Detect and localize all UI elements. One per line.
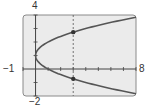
parabola-chart [0,0,147,108]
x-max-label: 8 [139,64,145,74]
x-min-label: −1 [3,64,14,74]
marked-point [71,77,75,81]
marked-point [71,30,75,34]
y-max-label: 4 [32,1,38,11]
plot-area [23,15,136,96]
y-min-label: −2 [29,97,40,107]
